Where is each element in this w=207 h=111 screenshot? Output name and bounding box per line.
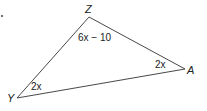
angle-label-z: 6x − 10 [78,32,112,43]
vertex-label-z: Z [84,3,93,15]
angle-label-y: 2x [31,81,42,92]
vertex-label-a: A [186,64,194,76]
vertex-label-y: Y [7,92,15,104]
triangle-zya [17,17,185,98]
bullet-marker [1,15,3,17]
triangle-diagram: Z Y A 6x − 10 2x 2x [0,0,207,111]
angle-label-a: 2x [155,59,166,70]
